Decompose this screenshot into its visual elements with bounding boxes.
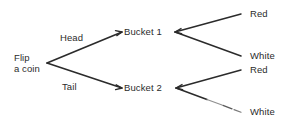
node-bucket-1: Bucket 1	[124, 26, 162, 37]
leaf-bucket2-red: Red	[250, 64, 268, 75]
root-label-line-1: Flip	[14, 52, 40, 63]
edge-bucket2-to-white	[176, 88, 241, 112]
edge-root-to-bucket2	[47, 63, 122, 90]
edge-label-head: Head	[60, 32, 83, 43]
edge-bucket1-to-white	[175, 32, 241, 56]
leaf-bucket1-red: Red	[250, 8, 268, 19]
edge-root-to-bucket1	[47, 31, 122, 63]
node-flip-a-coin: Flip a coin	[14, 52, 40, 74]
edge-bucket2-to-red	[176, 70, 241, 90]
node-bucket-2: Bucket 2	[124, 82, 162, 93]
leaf-bucket1-white: White	[250, 50, 275, 61]
tree-diagram: Flip a coin Head Tail Bucket 1 Bucket 2 …	[0, 0, 296, 131]
root-label-line-2: a coin	[14, 63, 40, 74]
edge-label-tail: Tail	[62, 81, 77, 92]
leaf-bucket2-white: White	[250, 106, 275, 117]
edge-bucket1-to-red	[175, 14, 241, 34]
